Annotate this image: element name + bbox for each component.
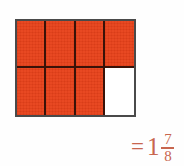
grid-cell-r1c4 — [105, 21, 134, 68]
grid-cell-r2c2 — [46, 68, 75, 115]
fraction-numerator: 7 — [163, 132, 173, 147]
grid-cell-r1c3 — [76, 21, 105, 68]
fraction-denominator: 8 — [163, 149, 173, 164]
fraction: 7 8 — [161, 132, 174, 164]
grid-cell-r2c4 — [105, 68, 134, 115]
grid-cell-r1c1 — [17, 21, 46, 68]
grid-cell-r2c3 — [76, 68, 105, 115]
grid-cell-r1c2 — [46, 21, 75, 68]
equals-sign: = — [131, 135, 144, 158]
whole-number: 1 — [147, 134, 160, 159]
fraction-model-figure: = 1 7 8 — [0, 0, 184, 166]
fraction-grid — [15, 19, 136, 117]
grid-cell-r2c1 — [17, 68, 46, 115]
result-expression: = 1 7 8 — [131, 131, 174, 163]
